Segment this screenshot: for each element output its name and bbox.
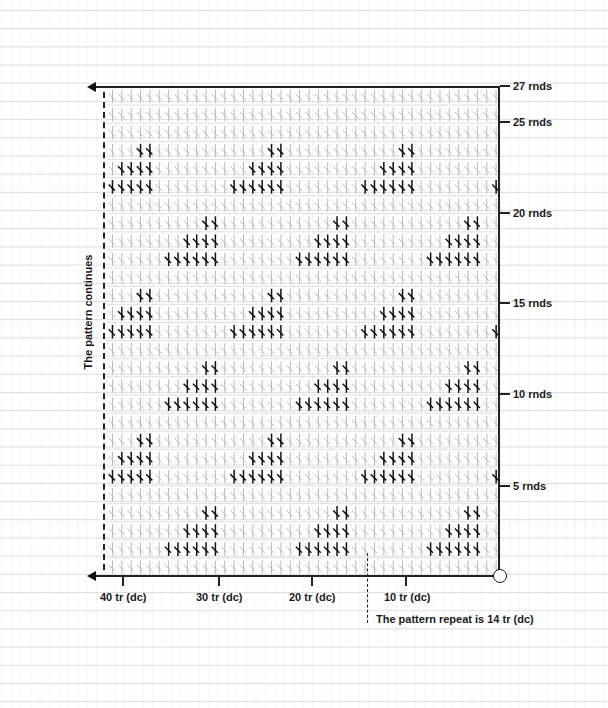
stitch <box>118 379 124 393</box>
stitch <box>184 216 190 230</box>
stitch <box>221 542 227 556</box>
stitch <box>315 343 321 357</box>
stitch <box>118 361 124 375</box>
stitch <box>258 198 264 212</box>
stitch <box>389 90 395 104</box>
stitch <box>305 506 311 520</box>
stitch-highlighted <box>455 234 461 248</box>
stitch <box>324 198 330 212</box>
stitch <box>352 144 358 158</box>
stitch <box>221 289 227 303</box>
stitch <box>361 379 367 393</box>
stitch <box>455 198 461 212</box>
stitch <box>296 452 302 466</box>
stitch <box>455 416 461 430</box>
stitch-highlighted <box>202 379 208 393</box>
stitch <box>305 560 311 574</box>
stitch <box>174 361 180 375</box>
stitch <box>118 253 124 267</box>
stitch <box>427 325 433 339</box>
stitch <box>352 542 358 556</box>
stitch <box>286 289 292 303</box>
stitch-highlighted <box>268 289 274 303</box>
stitch <box>230 379 236 393</box>
stitch <box>315 90 321 104</box>
stitch <box>268 397 274 411</box>
stitch <box>417 542 423 556</box>
stitch <box>268 416 274 430</box>
stitch-highlighted <box>296 397 302 411</box>
stitch-highlighted <box>399 289 405 303</box>
stitch <box>174 470 180 484</box>
stitch <box>184 506 190 520</box>
stitch-highlighted <box>193 524 199 538</box>
stitch-highlighted <box>399 452 405 466</box>
stitch <box>324 307 330 321</box>
stitch-highlighted <box>389 470 395 484</box>
stitch <box>305 343 311 357</box>
stitch <box>230 524 236 538</box>
stitch <box>483 488 489 502</box>
stitch <box>417 144 423 158</box>
stitch-highlighted <box>380 307 386 321</box>
stitch <box>399 488 405 502</box>
stitch-highlighted <box>474 216 480 230</box>
stitch <box>155 271 161 285</box>
stitch <box>380 144 386 158</box>
stitch <box>221 144 227 158</box>
stitch <box>371 307 377 321</box>
stitch-highlighted <box>127 180 133 194</box>
stitch <box>174 325 180 339</box>
stitch <box>221 397 227 411</box>
stitch-highlighted <box>127 470 133 484</box>
stitch <box>474 416 480 430</box>
stitch-highlighted <box>146 289 152 303</box>
stitch <box>483 524 489 538</box>
stitch <box>343 180 349 194</box>
stitch <box>352 325 358 339</box>
stitch <box>305 162 311 176</box>
stitch <box>389 488 395 502</box>
stitch <box>296 126 302 140</box>
stitch <box>240 271 246 285</box>
stitch-highlighted <box>399 325 405 339</box>
stitch <box>137 542 143 556</box>
stitch-highlighted <box>202 361 208 375</box>
stitch <box>165 126 171 140</box>
stitch-highlighted <box>305 542 311 556</box>
stitch <box>155 144 161 158</box>
stitch <box>174 560 180 574</box>
stitch <box>137 90 143 104</box>
stitch <box>417 108 423 122</box>
stitch <box>371 144 377 158</box>
stitch <box>455 180 461 194</box>
stitch <box>446 560 452 574</box>
stitch <box>174 416 180 430</box>
stitch <box>399 416 405 430</box>
stitch <box>324 434 330 448</box>
stitch <box>408 271 414 285</box>
stitch <box>455 361 461 375</box>
stitch <box>296 198 302 212</box>
stitch <box>230 216 236 230</box>
stitch <box>446 343 452 357</box>
stitch <box>408 542 414 556</box>
stitch <box>268 542 274 556</box>
stitch <box>315 307 321 321</box>
stitch <box>324 470 330 484</box>
stitch <box>324 452 330 466</box>
stitch <box>127 416 133 430</box>
stitch-highlighted <box>268 144 274 158</box>
stitch <box>399 198 405 212</box>
stitch <box>408 488 414 502</box>
label-20-rnds: 20 rnds <box>513 207 552 219</box>
stitch <box>324 289 330 303</box>
stitch-highlighted <box>380 325 386 339</box>
stitch-highlighted <box>137 180 143 194</box>
stitch <box>446 198 452 212</box>
stitch <box>137 216 143 230</box>
stitch <box>446 488 452 502</box>
stitch <box>296 560 302 574</box>
stitch-highlighted <box>474 397 480 411</box>
stitch-highlighted <box>408 307 414 321</box>
